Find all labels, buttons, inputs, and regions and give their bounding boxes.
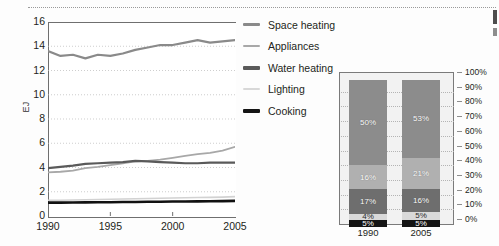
- bar-segment-label: 53%: [413, 114, 429, 123]
- percent-axis-tick: [457, 101, 462, 102]
- percent-tick-label: 100%: [465, 67, 487, 77]
- bar-segment-water-heating: 17%: [349, 189, 387, 214]
- percent-axis-tick: [457, 175, 462, 176]
- percent-axis-tick: [457, 190, 462, 191]
- percent-tick-label: 30%: [465, 170, 482, 180]
- bar-segment-label: 16%: [360, 173, 376, 182]
- percent-axis-tick: [457, 204, 462, 205]
- bar-segment-cooking: 5%: [402, 220, 440, 227]
- legend-color-swatch-icon: [243, 45, 260, 47]
- line-chart-y-axis: 0246810121416: [0, 0, 45, 246]
- bar-category-label-2005: 2005: [399, 227, 443, 238]
- x-tick-label: 2005: [213, 220, 257, 232]
- legend-item-label: Water heating: [268, 62, 333, 74]
- bar-category-label-1990: 1990: [346, 227, 390, 238]
- bar-segment-water-heating: 16%: [402, 189, 440, 213]
- percent-tick-label: 10%: [465, 199, 482, 209]
- line-chart: EJ 0246810121416 1990199520002005: [0, 0, 240, 246]
- right-edge-marker-dark: [493, 10, 497, 24]
- y-tick-label: 12: [3, 64, 45, 76]
- percent-tick-label: 50%: [465, 141, 482, 151]
- y-tick-label: 6: [3, 136, 45, 148]
- legend-item-label: Space heating: [268, 19, 335, 31]
- legend-item-label: Cooking: [268, 105, 307, 117]
- stacked-bar-1990: 5%4%17%16%50%: [349, 80, 387, 227]
- bar-segment-label: 17%: [360, 197, 376, 206]
- legend-color-swatch-icon: [243, 23, 260, 26]
- legend-item: Appliances: [243, 36, 353, 58]
- right-edge-marker-light: [493, 28, 497, 36]
- stacked-bar-2005: 5%5%16%21%53%: [402, 80, 440, 227]
- legend-item-label: Appliances: [268, 40, 319, 52]
- bar-segment-space-heating: 50%: [349, 80, 387, 165]
- percent-tick-label: 80%: [465, 96, 482, 106]
- y-tick-label: 10: [3, 88, 45, 100]
- percent-tick-label: 20%: [465, 185, 482, 195]
- percent-axis-tick: [457, 131, 462, 132]
- bar-segment-space-heating: 53%: [402, 80, 440, 158]
- y-tick-label: 8: [3, 112, 45, 124]
- percent-tick-label: 40%: [465, 155, 482, 165]
- bar-segment-label: 50%: [360, 118, 376, 127]
- bar-segment-appliances: 16%: [349, 165, 387, 189]
- percent-tick-label: 0%: [465, 214, 477, 224]
- percent-tick-label: 90%: [465, 82, 482, 92]
- y-tick-label: 14: [3, 39, 45, 51]
- percent-axis-tick: [457, 219, 462, 220]
- legend-item: Space heating: [243, 14, 353, 36]
- percent-tick-label: 70%: [465, 111, 482, 121]
- bar-segment-cooking: 5%: [349, 220, 387, 227]
- percent-axis-tick: [457, 72, 462, 73]
- percent-axis-tick: [457, 87, 462, 88]
- y-tick-label: 2: [3, 185, 45, 197]
- legend-item: Water heating: [243, 57, 353, 79]
- chart-legend: Space heatingAppliancesWater heatingLigh…: [243, 14, 353, 122]
- legend-color-swatch-icon: [243, 109, 260, 113]
- legend-item: Cooking: [243, 100, 353, 122]
- legend-color-swatch-icon: [243, 66, 260, 70]
- percent-tick-label: 60%: [465, 126, 482, 136]
- x-tick-label: 2000: [151, 220, 195, 232]
- line-chart-series-svg: [48, 22, 235, 216]
- y-tick-label: 4: [3, 161, 45, 173]
- bar-segment-label: 16%: [413, 196, 429, 205]
- x-tick-label: 1995: [88, 220, 132, 232]
- bar-segment-label: 21%: [413, 169, 429, 178]
- percent-axis-tick: [457, 116, 462, 117]
- figure-container: EJ 0246810121416 1990199520002005 Space …: [0, 0, 499, 246]
- percent-axis-tick: [457, 160, 462, 161]
- legend-color-swatch-icon: [243, 88, 260, 90]
- legend-item: Lighting: [243, 79, 353, 101]
- y-tick-label: 16: [3, 15, 45, 27]
- bar-segment-appliances: 21%: [402, 158, 440, 189]
- stacked-bar-chart: 5%4%17%16%50% 5%5%16%21%53% 1990 2005 10…: [339, 72, 454, 230]
- x-tick-label: 1990: [26, 220, 70, 232]
- legend-item-label: Lighting: [268, 83, 305, 95]
- percent-axis-tick: [457, 146, 462, 147]
- stacked-bar-percent-axis: 100%90%80%70%60%50%40%30%20%10%0%: [457, 67, 497, 230]
